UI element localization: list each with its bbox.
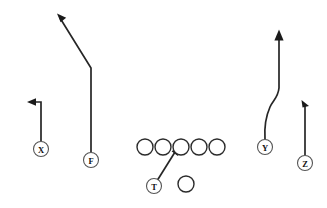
player-marker-x[interactable]: X <box>34 142 49 157</box>
player-marker-z[interactable]: Z <box>298 156 313 171</box>
lineman-circle-5 <box>209 139 225 155</box>
play-canvas: X F T Y Z <box>0 0 327 208</box>
player-label-x: X <box>38 145 45 155</box>
route-y-path <box>265 36 279 139</box>
route-x-arrowhead <box>27 98 36 105</box>
football-play-diagram: X F T Y Z <box>0 0 327 208</box>
player-label-z: Z <box>302 159 308 169</box>
route-z <box>302 100 310 155</box>
lineman-circle-3 <box>173 139 189 155</box>
routes-layer <box>27 14 309 181</box>
player-marker-f[interactable]: F <box>84 153 99 168</box>
offensive-line <box>137 139 225 155</box>
player-label-f: F <box>88 156 93 166</box>
route-f-path <box>60 18 91 152</box>
route-x-path <box>31 102 41 141</box>
route-y <box>265 30 284 140</box>
lineman-circle-1 <box>137 139 153 155</box>
route-y-arrowhead <box>274 30 283 41</box>
player-label-y: Y <box>262 143 268 153</box>
player-marker-y[interactable]: Y <box>258 140 273 155</box>
route-x <box>27 98 41 141</box>
route-f <box>57 14 91 153</box>
player-marker-t[interactable]: T <box>147 179 162 194</box>
route-z-arrowhead <box>302 100 310 108</box>
lineman-circle-4 <box>191 139 207 155</box>
route-f-arrowhead <box>57 14 66 23</box>
player-label-t: T <box>151 182 157 192</box>
quarterback-circle <box>178 176 194 192</box>
lineman-circle-2 <box>155 139 171 155</box>
